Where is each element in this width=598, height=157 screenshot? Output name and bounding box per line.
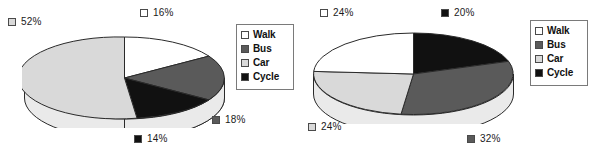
- pie-chart-figure: 52% 16% 18% 14% Walk Bus C: [0, 0, 598, 157]
- pie-chart-panel-2: 24% 20% 24% 32% Walk Bus C: [299, 0, 598, 157]
- pie-1-legend-label-car: Car: [253, 56, 269, 70]
- pie-1-legend-item-cycle: Cycle: [241, 70, 288, 84]
- pie-1-label-walk-text: 16%: [153, 7, 174, 18]
- pie-2-label-bus: 32%: [467, 133, 501, 144]
- pie-2-legend-label-bus: Bus: [547, 38, 566, 52]
- cycle-swatch-icon: [241, 73, 249, 81]
- pie-1-legend-item-bus: Bus: [241, 42, 288, 56]
- pie-2-label-cycle-swatch: [441, 9, 449, 17]
- pie-2-legend-item-walk: Walk: [535, 24, 582, 38]
- cycle-swatch-icon: [535, 69, 543, 77]
- pie-2-legend: Walk Bus Car Cycle: [530, 20, 588, 86]
- pie-1-legend-label-walk: Walk: [253, 28, 276, 42]
- pie-2-legend-label-walk: Walk: [547, 24, 570, 38]
- pie-1-label-walk: 16%: [140, 7, 174, 18]
- pie-2-label-car-swatch: [308, 123, 316, 131]
- walk-swatch-icon: [241, 31, 249, 39]
- pie-1-label-cycle: 14%: [134, 133, 168, 144]
- pie-1-label-cycle-text: 14%: [147, 133, 168, 144]
- walk-swatch-icon: [535, 27, 543, 35]
- pie-1-label-bus-swatch: [212, 116, 220, 124]
- pie-2-legend-label-car: Car: [547, 52, 563, 66]
- bus-swatch-icon: [535, 41, 543, 49]
- pie-1-svg: [22, 28, 227, 128]
- pie-1-label-car-swatch: [8, 18, 16, 26]
- pie-1-legend-label-bus: Bus: [253, 42, 272, 56]
- car-swatch-icon: [241, 59, 249, 67]
- pie-2-label-cycle: 20%: [441, 7, 475, 18]
- pie-1-label-cycle-swatch: [134, 135, 142, 143]
- pie-1-label-bus-text: 18%: [225, 114, 246, 125]
- pie-2-label-car-text: 24%: [321, 121, 342, 132]
- pie-2-legend-label-cycle: Cycle: [547, 66, 573, 80]
- bus-swatch-icon: [241, 45, 249, 53]
- pie-2-legend-item-cycle: Cycle: [535, 66, 582, 80]
- pie-2-legend-item-car: Car: [535, 52, 582, 66]
- pie-2-svg: [311, 24, 516, 124]
- pie-1-legend-item-car: Car: [241, 56, 288, 70]
- pie-2-label-walk-text: 24%: [333, 7, 354, 18]
- pie-1-label-walk-swatch: [140, 9, 148, 17]
- pie-2-graphic: [311, 24, 516, 124]
- pie-2-label-cycle-text: 20%: [454, 7, 475, 18]
- pie-1-label-car-text: 52%: [21, 16, 42, 27]
- pie-2-label-car: 24%: [308, 121, 342, 132]
- pie-2-label-bus-swatch: [467, 135, 475, 143]
- car-swatch-icon: [535, 55, 543, 63]
- pie-2-slice-walk: [314, 33, 414, 74]
- pie-2-label-bus-text: 32%: [480, 133, 501, 144]
- pie-2-label-walk-swatch: [320, 9, 328, 17]
- pie-1-label-bus: 18%: [212, 114, 246, 125]
- pie-1-label-car: 52%: [8, 16, 42, 27]
- pie-1-legend: Walk Bus Car Cycle: [236, 24, 294, 90]
- pie-2-legend-item-bus: Bus: [535, 38, 582, 52]
- pie-1-graphic: [22, 28, 227, 128]
- pie-1-legend-item-walk: Walk: [241, 28, 288, 42]
- pie-2-label-walk: 24%: [320, 7, 354, 18]
- pie-1-legend-label-cycle: Cycle: [253, 70, 279, 84]
- pie-chart-panel-1: 52% 16% 18% 14% Walk Bus C: [0, 0, 299, 157]
